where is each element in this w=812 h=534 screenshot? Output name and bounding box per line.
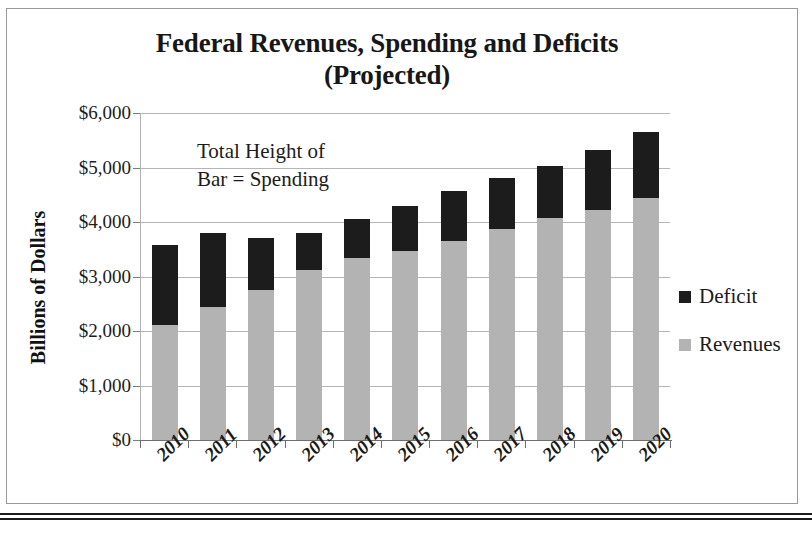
y-tick-label: $2,000 — [79, 320, 131, 342]
bar-segment-revenues — [585, 210, 611, 440]
bar-segment-deficit — [441, 191, 467, 241]
bar-column[interactable] — [441, 113, 467, 440]
y-tick-label: $4,000 — [79, 211, 131, 233]
bar-segment-deficit — [248, 238, 274, 290]
bar-segment-deficit — [633, 132, 659, 198]
bar-column[interactable] — [152, 113, 178, 440]
chart-title-line-1: Federal Revenues, Spending and Deficits — [156, 28, 618, 58]
legend-swatch-icon — [679, 291, 691, 303]
bar-segment-deficit — [152, 245, 178, 325]
bar-segment-revenues — [296, 270, 322, 440]
bar-segment-revenues — [248, 290, 274, 440]
bar-segment-revenues — [152, 325, 178, 440]
bar-column[interactable] — [344, 113, 370, 440]
y-tick-label: $1,000 — [79, 375, 131, 397]
bar-segment-revenues — [200, 307, 226, 440]
bar-segment-deficit — [200, 233, 226, 307]
legend-swatch-icon — [679, 339, 691, 351]
bar-column[interactable] — [633, 113, 659, 440]
legend-label: Revenues — [699, 332, 781, 357]
bar-segment-deficit — [296, 233, 322, 270]
bar-column[interactable] — [537, 113, 563, 440]
chart-title: Federal Revenues, Spending and Deficits … — [67, 27, 707, 91]
bar-segment-revenues — [489, 229, 515, 440]
x-axis-tick-labels: 2010201120122013201420152016201720182019… — [140, 450, 670, 520]
chart-frame: Federal Revenues, Spending and Deficits … — [6, 8, 798, 504]
chart-page: Federal Revenues, Spending and Deficits … — [0, 0, 812, 534]
bar-segment-revenues — [344, 258, 370, 440]
annotation-line-1: Total Height of — [197, 139, 325, 163]
bar-column[interactable] — [489, 113, 515, 440]
y-tick-label: $3,000 — [79, 266, 131, 288]
y-tick-label: $6,000 — [79, 102, 131, 124]
chart-annotation: Total Height of Bar = Spending — [197, 137, 329, 193]
legend-label: Deficit — [699, 284, 757, 309]
page-bottom-rule-secondary — [0, 518, 812, 520]
bar-segment-deficit — [585, 150, 611, 210]
bar-segment-deficit — [344, 219, 370, 258]
page-bottom-rule — [0, 513, 812, 515]
legend-item-deficit[interactable]: Deficit — [679, 284, 811, 309]
chart-title-line-2: (Projected) — [67, 59, 707, 91]
legend-item-revenues[interactable]: Revenues — [679, 332, 811, 357]
y-tick-label: $5,000 — [79, 157, 131, 179]
bar-segment-revenues — [633, 198, 659, 440]
bar-column[interactable] — [585, 113, 611, 440]
bar-segment-deficit — [537, 166, 563, 218]
bar-segment-revenues — [441, 241, 467, 440]
bar-column[interactable] — [392, 113, 418, 440]
annotation-line-2: Bar = Spending — [197, 165, 329, 193]
y-axis-tick-labels: $6,000 $5,000 $4,000 $3,000 $2,000 $1,00… — [47, 113, 131, 440]
bar-segment-revenues — [392, 251, 418, 440]
y-tick-label: $0 — [112, 429, 131, 451]
chart-legend: Deficit Revenues — [679, 284, 811, 380]
bar-segment-deficit — [392, 206, 418, 251]
bar-segment-deficit — [489, 178, 515, 229]
bar-segment-revenues — [537, 218, 563, 440]
